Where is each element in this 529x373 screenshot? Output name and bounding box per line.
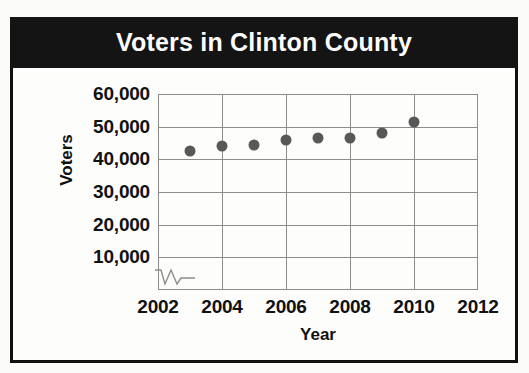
gridline-horizontal xyxy=(158,159,478,160)
gridline-vertical xyxy=(350,94,351,290)
data-point xyxy=(313,133,324,144)
gridline-horizontal xyxy=(158,127,478,128)
x-tick-label: 2010 xyxy=(384,296,444,318)
x-axis-title: Year xyxy=(158,325,478,345)
gridline-vertical xyxy=(222,94,223,290)
gridline-horizontal xyxy=(158,192,478,193)
y-tick-label: 40,000 xyxy=(32,148,150,170)
gridline-horizontal xyxy=(158,257,478,258)
data-point xyxy=(281,134,292,145)
gridline-vertical xyxy=(286,94,287,290)
y-tick-label: 60,000 xyxy=(32,83,150,105)
y-tick-label: 30,000 xyxy=(32,181,150,203)
x-tick-label: 2008 xyxy=(320,296,380,318)
data-point xyxy=(409,116,420,127)
y-axis-tick-labels: 10,00020,00030,00040,00050,00060,000 xyxy=(32,94,150,290)
chart-figure: Voters in Clinton County Voters 10,00020… xyxy=(0,0,529,373)
x-tick-label: 2006 xyxy=(256,296,316,318)
data-point xyxy=(377,128,388,139)
data-point xyxy=(217,141,228,152)
y-tick-label: 10,000 xyxy=(32,246,150,268)
x-tick-label: 2004 xyxy=(192,296,252,318)
data-point xyxy=(249,139,260,150)
x-tick-label: 2002 xyxy=(128,296,188,318)
data-point xyxy=(345,133,356,144)
chart-title: Voters in Clinton County xyxy=(116,28,412,57)
x-tick-label: 2012 xyxy=(448,296,508,318)
y-tick-label: 20,000 xyxy=(32,214,150,236)
y-tick-label: 50,000 xyxy=(32,116,150,138)
chart-title-bar: Voters in Clinton County xyxy=(10,17,518,68)
gridline-horizontal xyxy=(158,225,478,226)
plot-area xyxy=(158,94,478,290)
x-axis-tick-labels: 200220042006200820102012 xyxy=(0,296,529,322)
data-point xyxy=(185,146,196,157)
axis-break-icon xyxy=(155,268,195,294)
